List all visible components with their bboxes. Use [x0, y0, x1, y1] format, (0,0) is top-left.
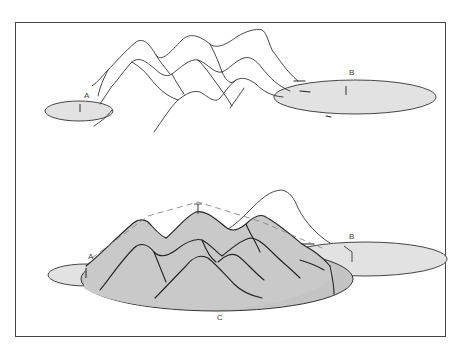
bottom-panel — [48, 190, 447, 311]
bottom-label-c: C — [217, 313, 223, 322]
top-panel — [45, 29, 436, 132]
top-ellipse-a — [45, 101, 113, 121]
top-label-b: B — [349, 68, 354, 77]
mountain-diagram — [0, 0, 457, 348]
mountain-mass — [84, 212, 336, 310]
top-label-a: A — [84, 91, 89, 100]
top-ellipse-b — [274, 80, 436, 114]
bottom-label-b: B — [349, 232, 354, 241]
bottom-label-a: A — [88, 252, 93, 261]
